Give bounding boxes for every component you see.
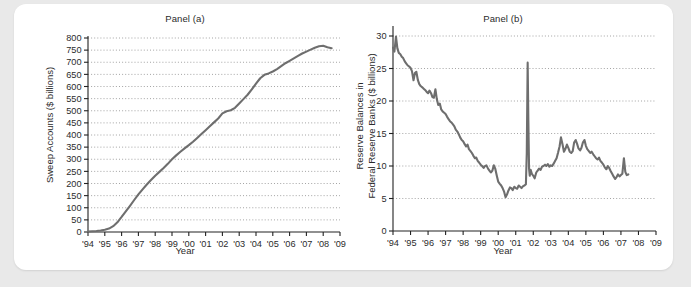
y-tick-label: 250 [66, 167, 81, 177]
y-tick-label: 0 [76, 227, 81, 237]
panel-b-x-axis-label: Year [338, 245, 668, 256]
y-tick-label: 800 [66, 33, 81, 43]
y-tick-label: 750 [66, 45, 81, 55]
y-tick-label: 650 [66, 70, 81, 80]
y-tick-label: 30 [376, 31, 386, 41]
y-tick-label: 25 [376, 64, 386, 74]
y-tick-label: 600 [66, 82, 81, 92]
y-tick-label: 50 [71, 215, 81, 225]
panel-a: Panel (a) Sweep Accounts ($ billions) 05… [20, 4, 350, 270]
series-line-sweep-accounts [88, 46, 332, 232]
y-tick-label: 300 [66, 154, 81, 164]
y-tick-label: 550 [66, 94, 81, 104]
y-tick-label: 15 [376, 129, 386, 139]
panel-b: Panel (b) Reserve Balances inFederal Res… [338, 4, 668, 270]
figure-card: Panel (a) Sweep Accounts ($ billions) 05… [14, 4, 673, 270]
y-tick-label: 100 [66, 203, 81, 213]
y-tick-label: 0 [381, 226, 386, 236]
panel-b-plot: 051015202530'94'95'96'97'98'99'00'01'02'… [338, 4, 668, 270]
y-tick-label: 350 [66, 142, 81, 152]
y-tick-label: 20 [376, 96, 386, 106]
series-line-reserve-balances [393, 37, 628, 198]
y-tick-label: 5 [381, 194, 386, 204]
y-tick-label: 10 [376, 161, 386, 171]
panel-a-x-axis-label: Year [20, 245, 350, 256]
panel-a-plot: 0501001502002503003504004505005506006507… [20, 4, 350, 270]
y-tick-label: 400 [66, 130, 81, 140]
y-tick-label: 700 [66, 57, 81, 67]
y-tick-label: 500 [66, 106, 81, 116]
y-tick-label: 200 [66, 179, 81, 189]
y-tick-label: 150 [66, 191, 81, 201]
y-tick-label: 450 [66, 118, 81, 128]
